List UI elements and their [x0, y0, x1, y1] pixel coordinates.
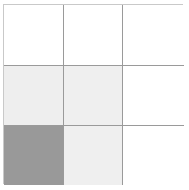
grid-cell-r3c1[interactable]	[4, 126, 64, 185]
grid-cell-r3c3[interactable]	[123, 126, 184, 185]
grid-outer-border	[3, 4, 183, 184]
grid-cell-r1c2[interactable]	[64, 5, 123, 66]
grid-cell-r1c3[interactable]	[123, 5, 184, 66]
grid-cell-r3c2[interactable]	[64, 126, 123, 185]
grid-cell-r2c2[interactable]	[64, 66, 123, 126]
grid-cell-r1c1[interactable]	[4, 5, 64, 66]
grid-cell-r2c1[interactable]	[4, 66, 64, 126]
grid-3x3	[4, 5, 182, 183]
figure-root	[0, 0, 189, 190]
grid-cell-r2c3[interactable]	[123, 66, 184, 126]
